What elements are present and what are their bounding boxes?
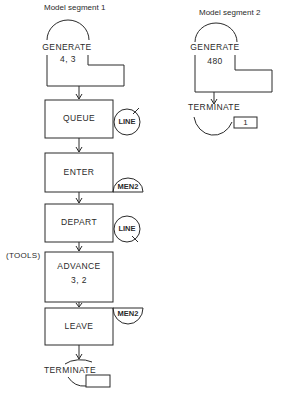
segment-2-title: Model segment 2 xyxy=(199,8,260,17)
advance-operand: 3, 2 xyxy=(45,274,113,287)
generate-2-operand: 480 xyxy=(196,55,234,68)
block-diagram-lines xyxy=(0,0,282,406)
generate-1-arc xyxy=(47,20,89,40)
terminate-1-label: TERMINATE xyxy=(40,364,100,377)
leave-label: LEAVE xyxy=(45,320,113,333)
terminate-2-operand: 1 xyxy=(234,118,257,127)
generate-2-label: GENERATE xyxy=(186,41,244,54)
enter-resource: MEN2 xyxy=(113,182,143,191)
leave-resource: MEN2 xyxy=(113,309,143,318)
tools-label: (TOOLS) xyxy=(6,251,40,260)
queue-resource: LINE xyxy=(114,117,140,126)
segment-1-title: Model segment 1 xyxy=(44,3,105,12)
advance-label: ADVANCE xyxy=(45,260,113,273)
terminate-2-label: TERMINATE xyxy=(184,101,244,114)
depart-label: DEPART xyxy=(45,216,113,229)
generate-1-operand: 4, 3 xyxy=(48,53,88,66)
terminate-1-arc-bottom xyxy=(68,377,86,386)
generate-2-arc xyxy=(195,23,237,42)
terminate-2-arc-bottom xyxy=(194,117,232,135)
depart-resource: LINE xyxy=(114,224,140,233)
enter-label: ENTER xyxy=(45,166,113,179)
queue-label: QUEUE xyxy=(45,112,113,125)
